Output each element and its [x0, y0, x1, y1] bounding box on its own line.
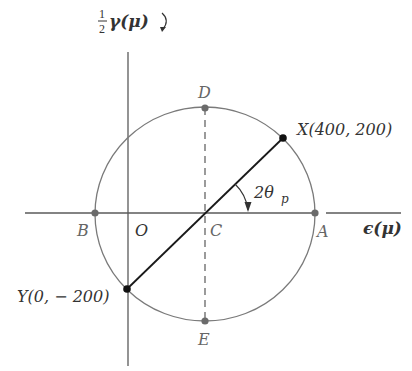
point-A: [311, 209, 318, 216]
label-C: C: [210, 221, 222, 240]
point-E: [201, 317, 208, 324]
label-Y: Y(0, − 200): [17, 287, 109, 306]
point-X: [279, 134, 287, 142]
label-O: O: [135, 221, 148, 240]
rotation-arrowhead-icon: [160, 27, 166, 32]
vertical-label-fraction-num: 1: [99, 7, 105, 21]
horizontal-axis-label: ϵ(μ): [363, 218, 402, 238]
point-D: [201, 104, 208, 111]
label-B: B: [76, 221, 89, 240]
vertical-axis-label: γ(μ): [109, 11, 149, 31]
vertical-label-fraction-den: 2: [99, 22, 105, 36]
label-D: D: [197, 83, 211, 102]
mohr-circle-diagram: 1 2 γ(μ) ϵ(μ) D E B O C A X(400, 200) Y(…: [0, 0, 412, 371]
angle-subscript: p: [281, 192, 289, 206]
label-A: A: [315, 222, 329, 241]
angle-label: 2θ: [253, 183, 274, 202]
point-B: [91, 209, 98, 216]
label-E: E: [197, 330, 210, 349]
angle-arrowhead-icon: [245, 202, 252, 212]
rotation-arrow-icon: [162, 13, 166, 29]
point-Y: [123, 285, 131, 293]
label-X: X(400, 200): [295, 120, 392, 139]
